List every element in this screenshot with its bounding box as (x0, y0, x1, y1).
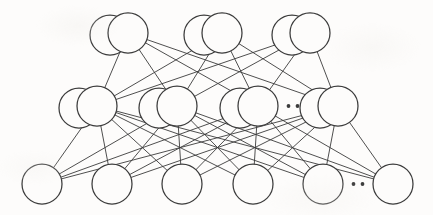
nodes-group (22, 13, 413, 204)
input-node-4 (233, 164, 273, 204)
input-layer-ellipsis-dot-2 (361, 182, 365, 186)
input-node-5 (303, 164, 343, 204)
network-canvas (0, 0, 433, 215)
output-node-2 (202, 13, 242, 53)
edge-in-4-to-hid-2 (191, 120, 240, 170)
edge-in-5-to-hid-3 (270, 121, 310, 169)
hidden-node-4 (318, 86, 358, 126)
edge-in-3-to-hid-2 (178, 125, 181, 164)
edge-hid-4-to-out-3 (317, 51, 331, 88)
hidden-layer-ellipsis-dot-1 (287, 104, 291, 108)
hidden-layer-ellipsis-dot-2 (296, 104, 300, 108)
edge-hid-2-to-out-1 (139, 49, 166, 90)
output-node-3 (290, 13, 330, 53)
hidden-node-1 (77, 86, 117, 126)
output-node-1 (108, 13, 148, 53)
input-node-2 (92, 164, 132, 204)
hidden-node-2 (157, 86, 197, 126)
edge-in-5-to-hid-4 (327, 125, 335, 165)
input-node-6 (373, 164, 413, 204)
edge-hid-1-to-out-1 (105, 51, 121, 88)
hidden-node-3 (238, 86, 278, 126)
input-node-3 (162, 164, 202, 204)
input-layer-ellipsis-dot-1 (352, 182, 356, 186)
input-node-1 (22, 164, 62, 204)
edge-in-4-to-hid-3 (254, 125, 257, 164)
edge-in-2-to-hid-1 (101, 125, 109, 165)
edge-hid-2-to-out-2 (187, 50, 212, 90)
neural-network-figure (0, 0, 433, 215)
